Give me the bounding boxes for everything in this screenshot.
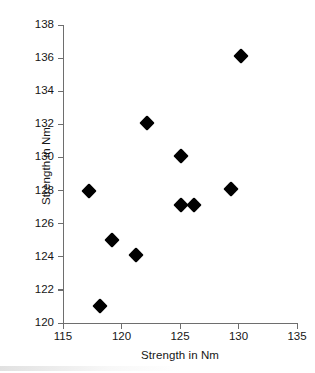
y-tick-label-text: 130	[24, 151, 54, 163]
data-point-marker	[81, 183, 97, 199]
y-tick-label: 132	[20, 118, 54, 130]
y-tick-label: 120	[20, 317, 54, 329]
x-tick-mark	[63, 324, 64, 329]
data-point-marker	[139, 115, 155, 131]
y-tick-label: 134	[20, 85, 54, 97]
y-tick-label: 138	[20, 19, 54, 31]
y-tick-label-text: 134	[24, 85, 54, 97]
x-axis-title: Strength in Nm	[63, 349, 297, 361]
data-point-marker	[233, 49, 249, 65]
data-point-marker	[93, 299, 109, 315]
y-tick-label-text: 128	[24, 185, 54, 197]
y-tick-label-text: 126	[24, 218, 54, 230]
y-tick-label-text: 124	[24, 251, 54, 263]
x-tick-mark	[297, 324, 298, 329]
x-tick-mark	[121, 324, 122, 329]
data-point-marker	[186, 198, 202, 214]
x-tick-mark	[180, 324, 181, 329]
plot-area	[63, 25, 297, 323]
x-tick-mark	[238, 324, 239, 329]
x-tick-label: 130	[219, 331, 259, 343]
y-tick-label: 122	[20, 284, 54, 296]
data-point-marker	[104, 232, 120, 248]
x-tick-label: 125	[160, 331, 200, 343]
page-edge-artifact	[0, 366, 180, 371]
data-point-marker	[173, 148, 189, 164]
y-tick-label-text: 136	[24, 52, 54, 64]
y-tick-label-text: 122	[24, 284, 54, 296]
scatter-plot-figure: Strength in Nm 1201221241261281301321341…	[0, 0, 315, 373]
y-tick-label-text: 138	[24, 19, 54, 31]
y-tick-label: 128	[20, 185, 54, 197]
x-tick-label: 135	[277, 331, 315, 343]
data-point-marker	[224, 181, 240, 197]
data-point-marker	[128, 247, 144, 263]
y-tick-label-text: 120	[24, 317, 54, 329]
y-tick-label-text: 132	[24, 118, 54, 130]
y-tick-label: 136	[20, 52, 54, 64]
y-tick-label: 124	[20, 251, 54, 263]
x-tick-label: 120	[102, 331, 142, 343]
y-tick-label: 126	[20, 218, 54, 230]
y-tick-label: 130	[20, 151, 54, 163]
x-tick-label: 115	[43, 331, 83, 343]
